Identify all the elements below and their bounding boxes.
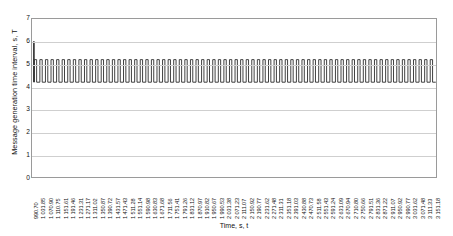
- x-tick-label: 1 671.68: [159, 198, 166, 219]
- x-tick-label: 2 311.31: [278, 198, 285, 219]
- x-tick-label: 1 831.12: [189, 198, 196, 219]
- x-tick-label: 2 031.38: [226, 198, 233, 219]
- x-tick-label: 1 950.67: [211, 198, 218, 219]
- x-tick-label: 1 231.31: [78, 198, 85, 219]
- x-tick-label: 1 590.98: [145, 198, 152, 219]
- x-axis-title: Time, s, t: [31, 221, 437, 231]
- x-tick-label: 2 791.51: [368, 198, 375, 219]
- x-tick-label: 2 351.18: [286, 198, 293, 219]
- x-tick-label: 1 350.87: [100, 198, 107, 219]
- gridline: [32, 65, 436, 66]
- x-tick-label: 3 151.18: [435, 198, 442, 219]
- y-tick-label: 0: [18, 174, 30, 182]
- x-tick-label: 1 551.14: [137, 198, 144, 219]
- x-tick-label: 2 511.58: [316, 198, 323, 219]
- x-tick-label: 2 871.22: [382, 198, 389, 219]
- x-tick-label: 2 591.24: [330, 198, 337, 219]
- y-tick-label: 6: [18, 37, 30, 45]
- x-tick-label: 2 710.80: [353, 198, 360, 219]
- chart-container: Message generation time interval, s, T 0…: [0, 0, 453, 236]
- y-axis-tick-labels: 01234567: [18, 14, 30, 180]
- x-tick-label: 1 151.61: [63, 198, 70, 219]
- x-tick-label: 1 471.43: [122, 198, 129, 219]
- y-tick-label: 4: [18, 83, 30, 91]
- x-tick-label: 2 551.43: [323, 198, 330, 219]
- x-tick-label: 1 110.75: [55, 198, 62, 219]
- x-tick-label: 2 071.23: [234, 198, 241, 219]
- x-tick-label: 1 070.90: [48, 198, 55, 219]
- x-tick-label: 1 791.26: [182, 198, 189, 219]
- x-tick-label: 2 750.66: [360, 198, 367, 219]
- y-tick-label: 3: [18, 105, 30, 113]
- x-tick-label: 1 271.17: [85, 198, 92, 219]
- x-tick-label: 2 430.88: [301, 198, 308, 219]
- x-tick-label: 2 911.07: [390, 198, 397, 219]
- gridline: [32, 133, 436, 134]
- x-tick-label: 2 990.77: [405, 198, 412, 219]
- series-polyline: [33, 42, 435, 83]
- x-tick-label: 2 831.36: [375, 198, 382, 219]
- x-tick-label: 3 031.62: [412, 198, 419, 219]
- y-tick-label: 1: [18, 151, 30, 159]
- x-tick-label: 1 910.82: [204, 198, 211, 219]
- x-tick-label: 1 511.28: [130, 198, 137, 219]
- gridline: [32, 42, 436, 43]
- x-tick-label: 1 990.53: [219, 198, 226, 219]
- x-tick-label: 1 751.41: [174, 198, 181, 219]
- x-tick-label: 2 190.77: [256, 198, 263, 219]
- x-tick-label: 1 630.83: [152, 198, 159, 219]
- x-tick-label: 1 711.56: [167, 198, 174, 219]
- x-tick-label: 1 311.02: [92, 198, 99, 219]
- x-tick-label: 2 631.09: [338, 198, 345, 219]
- gridline: [32, 156, 436, 157]
- x-tick-label: 1 431.57: [115, 198, 122, 219]
- x-tick-label: 990.70: [33, 202, 40, 219]
- x-tick-label: 1 390.72: [107, 198, 114, 219]
- x-tick-label: 1 191.46: [70, 198, 77, 219]
- x-tick-label: 2 150.92: [249, 198, 256, 219]
- plot-area: [31, 18, 437, 178]
- x-tick-label: 2 111.07: [241, 199, 248, 219]
- y-tick-label: 5: [18, 60, 30, 68]
- x-tick-label: 3 071.48: [420, 198, 427, 219]
- x-tick-label: 2 950.92: [397, 198, 404, 219]
- x-tick-label: 2 231.62: [264, 198, 271, 219]
- x-tick-label: 2 470.73: [308, 198, 315, 219]
- x-tick-label: 1 870.97: [197, 198, 204, 219]
- x-tick-label: 2 670.94: [345, 198, 352, 219]
- x-tick-label: 1 031.85: [40, 198, 47, 219]
- y-tick-label: 2: [18, 128, 30, 136]
- x-tick-label: 2 271.48: [271, 198, 278, 219]
- x-tick-label: 3 111.33: [427, 199, 434, 219]
- gridline: [32, 88, 436, 89]
- y-tick-label: 7: [18, 14, 30, 22]
- gridline: [32, 110, 436, 111]
- x-axis-tick-labels: 990.701 031.851 070.901 110.751 151.611 …: [31, 179, 437, 221]
- x-tick-label: 2 391.03: [293, 198, 300, 219]
